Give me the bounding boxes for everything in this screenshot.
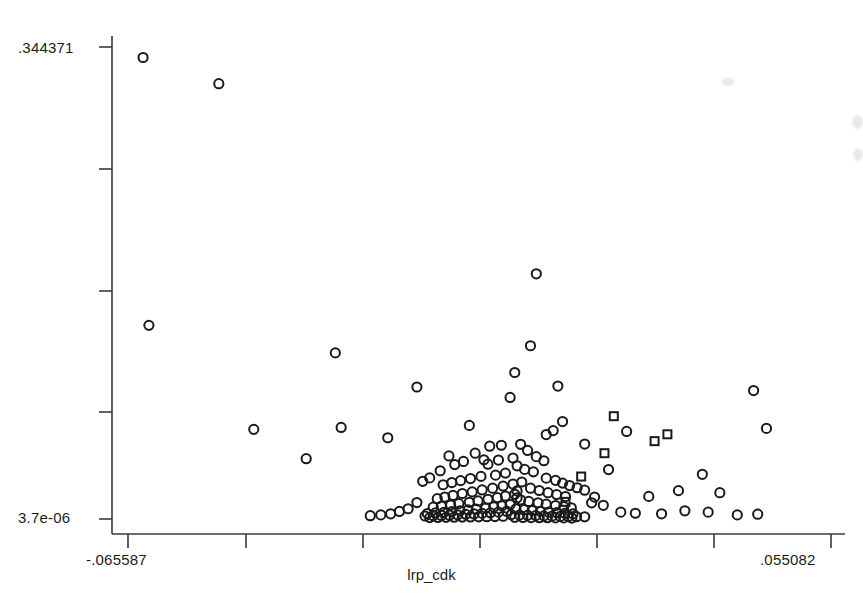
data-point [488,484,497,493]
data-point [749,386,758,395]
data-point [456,476,465,485]
data-point [214,79,223,88]
data-point [497,441,506,450]
data-point [680,506,689,515]
data-point [517,477,526,486]
data-point [376,510,385,519]
data-point [610,412,618,420]
data-point [476,472,485,481]
data-point [600,449,608,457]
data-point [599,501,608,510]
data-point [494,455,503,464]
data-point [577,473,585,481]
data-point [704,508,713,517]
data-point [436,466,445,475]
data-point [529,467,538,476]
y-axis-min-label: 3.7e-06 [18,509,70,526]
scan-artifact-3 [853,148,863,161]
data-point [249,425,258,434]
data-point [499,482,508,491]
data-point [553,381,562,390]
x-axis-ticks [128,534,831,548]
data-point [657,509,666,518]
data-point [506,393,515,402]
data-point [523,446,532,455]
data-point [663,430,671,438]
y-axis-max-label: .344371 [18,39,74,56]
data-point [471,449,480,458]
y-axis-ticks [99,47,112,519]
data-point [616,508,625,517]
plot-canvas [0,0,863,604]
scan-artifact-2 [852,115,863,129]
data-point [302,454,311,463]
data-point [465,421,474,430]
data-point [651,437,659,445]
data-point [485,442,494,451]
data-point [466,474,475,483]
data-point [412,382,421,391]
data-point [366,511,375,520]
data-point [715,488,724,497]
data-point [144,321,153,330]
data-point [535,486,544,495]
data-point [337,423,346,432]
data-point [331,348,340,357]
data-point [526,341,535,350]
data-point [552,490,561,499]
data-point [386,509,395,518]
data-point [447,478,456,487]
data-point [383,433,392,442]
data-point [631,509,640,518]
data-point [478,485,487,494]
data-point [138,53,147,62]
data-point [501,468,510,477]
scatter-plot-figure: .344371 3.7e-06 -.065587 .055082 lrp_cdk [0,0,863,604]
data-point [468,487,477,496]
data-point [439,480,448,489]
data-point [753,510,762,519]
data-point [532,269,541,278]
data-point [412,498,421,507]
data-point [543,488,552,497]
data-markers [138,53,771,523]
data-point [580,439,589,448]
data-point [604,465,613,474]
data-point [698,470,707,479]
data-point [491,471,500,480]
data-point [539,456,548,465]
data-point [450,460,459,469]
data-point [558,417,567,426]
data-point [733,510,742,519]
data-point [458,489,467,498]
data-point [510,368,519,377]
data-point [674,486,683,495]
scan-artifact-1 [722,78,734,86]
data-point [644,492,653,501]
x-axis-title: lrp_cdk [0,566,863,583]
data-point [444,451,453,460]
data-point [762,424,771,433]
data-point [622,427,631,436]
data-point [542,474,551,483]
